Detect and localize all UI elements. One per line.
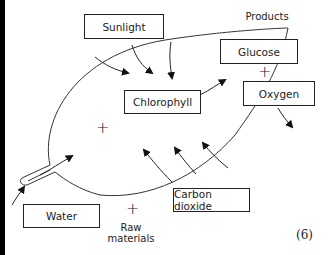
plus-glucose-oxygen: + (258, 64, 271, 80)
carbon-dioxide-label: Carbon dioxide (174, 188, 249, 212)
glucose-box: Glucose (220, 39, 298, 64)
oxygen-label: Oxygen (259, 88, 299, 100)
glucose-label: Glucose (238, 46, 280, 58)
products-heading: Products (237, 11, 297, 22)
water-label: Water (46, 210, 77, 222)
water-box: Water (23, 204, 100, 228)
plus-raw-materials: + (126, 201, 139, 217)
chlorophyll-box: Chlorophyll (124, 90, 201, 114)
sunlight-label: Sunlight (102, 21, 145, 33)
chlorophyll-label: Chlorophyll (133, 96, 192, 108)
question-marks: (6) (296, 228, 313, 242)
oxygen-box: Oxygen (243, 81, 315, 106)
raw-materials-label: Raw materials (105, 222, 157, 244)
carbon-dioxide-box: Carbon dioxide (173, 188, 250, 212)
sunlight-box: Sunlight (84, 14, 164, 39)
leaf-stalk (20, 165, 55, 185)
plus-leaf-center: + (96, 120, 109, 136)
